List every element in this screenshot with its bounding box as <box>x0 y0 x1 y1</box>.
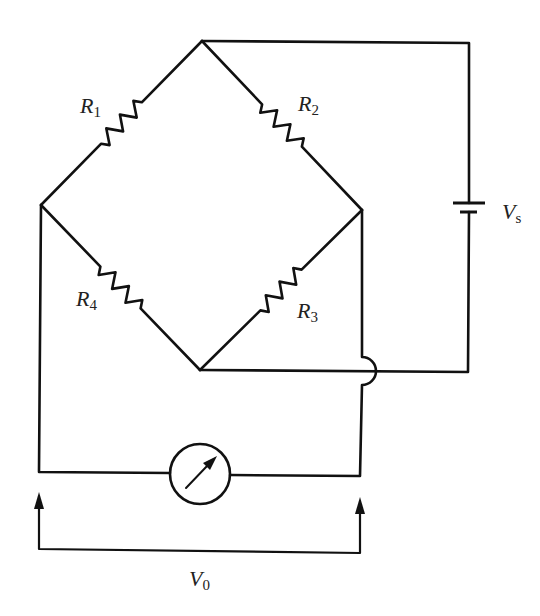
label-vs: Vs <box>502 199 521 226</box>
wheatstone-bridge-diagram: R1 R2 R3 R4 Vs V0 <box>0 0 540 616</box>
arrow-up-right-icon <box>355 497 365 514</box>
resistor-r1-icon <box>41 41 202 205</box>
supply-wire-top <box>202 41 469 203</box>
supply-loop <box>200 41 485 372</box>
detector-loop <box>39 205 376 504</box>
arrow-up-left-icon <box>34 492 44 509</box>
resistor-r3-icon <box>200 210 362 370</box>
output-voltage-bracket <box>34 492 365 553</box>
label-r1: R1 <box>79 93 101 120</box>
meter-needle-icon <box>186 465 208 488</box>
label-r4: R4 <box>75 286 97 313</box>
resistor-r4-icon <box>41 205 200 370</box>
label-r2: R2 <box>297 91 319 118</box>
labels: R1 R2 R3 R4 Vs V0 <box>75 91 521 593</box>
detector-wire-right-with-crossover-icon <box>230 210 376 476</box>
v0-bracket-line <box>39 500 360 553</box>
resistor-r2-icon <box>202 41 362 210</box>
label-r3: R3 <box>296 298 318 325</box>
detector-wire-left <box>39 205 170 473</box>
label-v0: V0 <box>189 566 210 593</box>
